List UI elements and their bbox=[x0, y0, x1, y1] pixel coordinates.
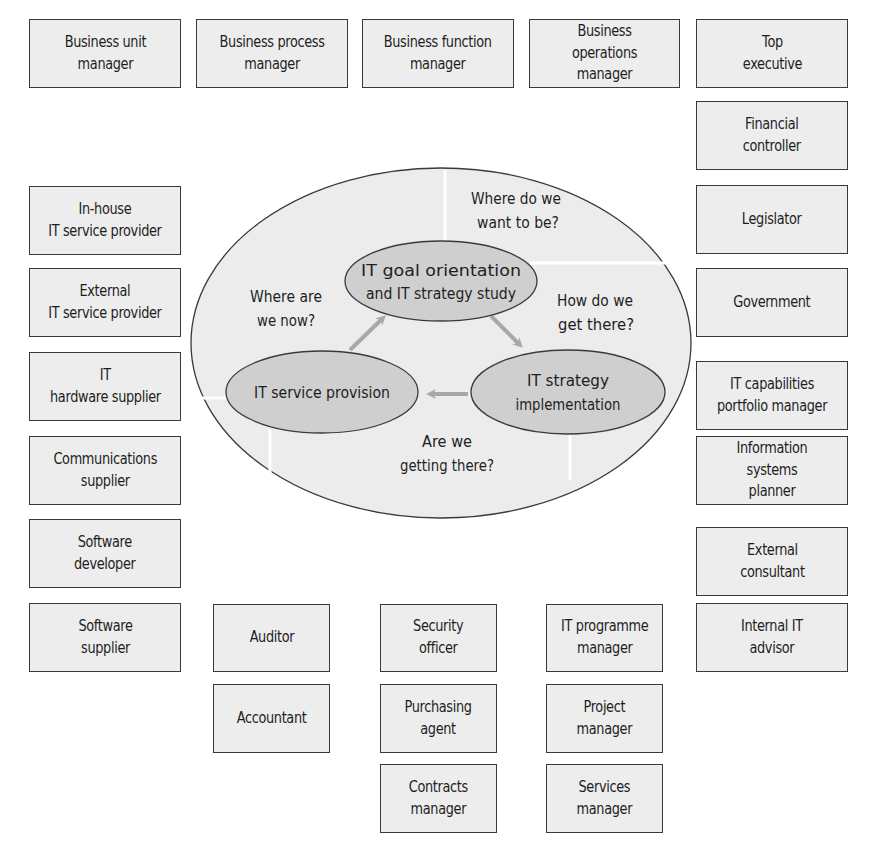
role-label: IT capabilities portfolio manager bbox=[717, 374, 827, 418]
role-internal-it-advisor: Internal IT advisor bbox=[696, 603, 848, 672]
role-software-supplier: Software supplier bbox=[29, 603, 181, 672]
goal-node-line1: IT goal orientation bbox=[361, 262, 521, 280]
role-it-hardware-supplier: IT hardware supplier bbox=[29, 352, 181, 421]
role-label: External IT service provider bbox=[48, 281, 161, 325]
role-financial-controller: Financial controller bbox=[696, 101, 848, 170]
question-getting-line2: getting there? bbox=[400, 457, 494, 475]
role-services-manager: Services manager bbox=[546, 764, 663, 833]
role-information-systems-planner: Information systems planner bbox=[696, 436, 848, 505]
role-label: Security officer bbox=[413, 616, 463, 660]
provision-node-label: IT service provision bbox=[254, 384, 390, 402]
role-business-function-manager: Business function manager bbox=[362, 19, 514, 88]
role-business-unit-manager: Business unit manager bbox=[29, 19, 181, 88]
question-how-line2: get there? bbox=[558, 316, 634, 334]
implementation-node-line2: implementation bbox=[516, 396, 621, 414]
role-security-officer: Security officer bbox=[380, 604, 497, 672]
role-label: Services manager bbox=[577, 777, 633, 821]
role-label: Financial controller bbox=[743, 114, 801, 158]
role-business-operations-manager: Business operations manager bbox=[529, 19, 680, 88]
role-legislator: Legislator bbox=[696, 185, 848, 254]
role-label: Legislator bbox=[742, 209, 802, 231]
role-label: Software developer bbox=[74, 532, 136, 576]
question-getting-line1: Are we bbox=[422, 433, 472, 451]
role-label: In-house IT service provider bbox=[48, 199, 161, 243]
role-it-capabilities-portfolio-manager: IT capabilities portfolio manager bbox=[696, 361, 848, 430]
role-label: Project manager bbox=[577, 697, 633, 741]
role-project-manager: Project manager bbox=[546, 684, 663, 753]
role-label: Communications supplier bbox=[53, 449, 157, 493]
question-want-line2: want to be? bbox=[477, 214, 559, 232]
question-now-line1: Where are bbox=[250, 288, 322, 306]
role-label: Internal IT advisor bbox=[741, 616, 803, 660]
role-label: Purchasing agent bbox=[405, 697, 472, 741]
role-business-process-manager: Business process manager bbox=[196, 19, 348, 88]
question-want-line1: Where do we bbox=[471, 190, 561, 208]
role-label: External consultant bbox=[740, 540, 804, 584]
implementation-node-line1: IT strategy bbox=[527, 372, 609, 390]
role-label: Business unit manager bbox=[64, 32, 146, 76]
role-it-programme-manager: IT programme manager bbox=[546, 604, 663, 672]
role-purchasing-agent: Purchasing agent bbox=[380, 684, 497, 753]
strategy-implementation-node bbox=[471, 350, 665, 434]
role-government: Government bbox=[696, 268, 848, 337]
role-software-developer: Software developer bbox=[29, 519, 181, 588]
role-external-consultant: External consultant bbox=[696, 527, 848, 596]
role-label: Accountant bbox=[237, 708, 307, 730]
role-auditor: Auditor bbox=[213, 604, 330, 672]
role-label: Top executive bbox=[742, 32, 801, 76]
question-how-line1: How do we bbox=[557, 292, 633, 310]
role-label: Contracts manager bbox=[409, 777, 468, 821]
role-label: IT programme manager bbox=[561, 616, 648, 660]
role-accountant: Accountant bbox=[213, 684, 330, 753]
goal-orientation-node bbox=[345, 241, 537, 321]
role-contracts-manager: Contracts manager bbox=[380, 764, 497, 833]
role-label: Information systems planner bbox=[711, 438, 833, 503]
goal-node-line2: and IT strategy study bbox=[366, 285, 516, 303]
question-now-line2: we now? bbox=[257, 312, 315, 330]
role-label: Software supplier bbox=[78, 616, 132, 660]
role-external-it-service-provider: External IT service provider bbox=[29, 268, 181, 337]
role-label: Business operations manager bbox=[544, 21, 665, 86]
role-top-executive: Top executive bbox=[696, 19, 848, 88]
role-in-house-it-service-provider: In-house IT service provider bbox=[29, 186, 181, 255]
role-label: Government bbox=[733, 292, 810, 314]
role-label: Business process manager bbox=[219, 32, 324, 76]
role-communications-supplier: Communications supplier bbox=[29, 436, 181, 505]
role-label: Auditor bbox=[249, 627, 294, 649]
role-label: IT hardware supplier bbox=[50, 365, 161, 409]
role-label: Business function manager bbox=[384, 32, 492, 76]
